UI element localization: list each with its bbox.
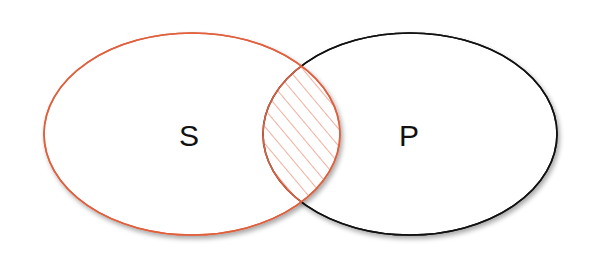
venn-svg: S P — [0, 0, 593, 255]
venn-diagram: S P — [0, 0, 593, 255]
set-s-label: S — [179, 119, 199, 152]
set-p-label: P — [399, 119, 419, 152]
